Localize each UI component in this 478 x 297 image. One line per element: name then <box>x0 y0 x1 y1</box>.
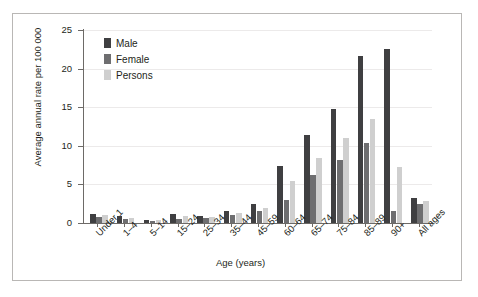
bar-group <box>224 30 242 223</box>
y-tick-label-text: 15 <box>46 102 72 112</box>
bar-group <box>304 30 322 223</box>
legend-swatch-icon <box>104 70 111 80</box>
y-tick-label: 10 <box>46 141 72 151</box>
bar-male <box>384 49 390 223</box>
y-tick-label: 20 <box>46 64 72 74</box>
bar-male <box>170 214 176 223</box>
y-axis-title: Average annual rate per 100 000 <box>33 10 43 185</box>
chart-figure: Average annual rate per 100 000 05101520… <box>0 0 478 297</box>
bar-persons <box>316 158 322 223</box>
bar-male <box>331 109 337 223</box>
bar-male <box>90 214 96 223</box>
x-axis-title: Age (years) <box>216 258 265 268</box>
bar-female <box>391 211 397 223</box>
y-tick-label: 15 <box>46 102 72 112</box>
bar-group <box>411 30 429 223</box>
bar-male <box>411 198 417 223</box>
bar-female <box>364 143 370 223</box>
bar-female <box>257 211 263 223</box>
legend-item: Persons <box>104 68 194 82</box>
bar-male <box>358 56 364 223</box>
bar-female <box>284 200 290 223</box>
y-tick-label: 5 <box>46 179 72 189</box>
bar-group <box>331 30 349 223</box>
bar-female <box>310 175 316 223</box>
legend-swatch-icon <box>104 54 111 64</box>
y-tick-label: 0 <box>46 218 72 228</box>
bar-group <box>277 30 295 223</box>
y-tick-label-text: 5 <box>46 179 72 189</box>
bar-group <box>358 30 376 223</box>
bar-female <box>417 204 423 223</box>
bar-group <box>384 30 402 223</box>
bar-persons <box>397 167 403 223</box>
bar-persons <box>370 119 376 223</box>
y-tick-label: 25 <box>46 25 72 35</box>
legend-item-label: Male <box>116 38 138 49</box>
y-tick-label-text: 10 <box>46 141 72 151</box>
legend-swatch-icon <box>104 38 111 48</box>
legend-item: Female <box>104 52 194 66</box>
bar-female <box>337 160 343 223</box>
bar-male <box>277 166 283 223</box>
legend-item: Male <box>104 36 194 50</box>
bar-persons <box>343 138 349 223</box>
bar-group <box>197 30 215 223</box>
legend-item-label: Persons <box>116 70 153 81</box>
y-tick-label-text: 0 <box>46 218 72 228</box>
chart-legend: MaleFemalePersons <box>104 36 194 84</box>
legend-item-label: Female <box>116 54 149 65</box>
y-tick-label-text: 20 <box>46 64 72 74</box>
bar-group <box>251 30 269 223</box>
bar-male <box>304 135 310 223</box>
bar-male <box>144 220 150 223</box>
y-tick-label-text: 25 <box>46 25 72 35</box>
